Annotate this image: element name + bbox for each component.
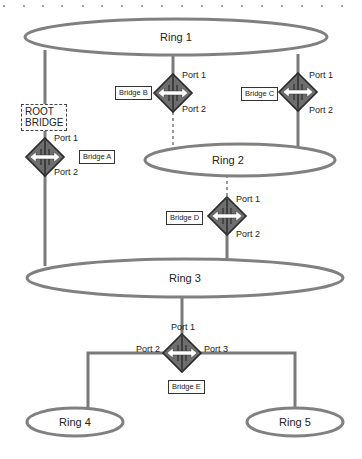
dotted-border [3, 5, 343, 7]
bridge-d-label: Bridge D [166, 211, 203, 225]
ring-3-label: Ring 3 [169, 273, 201, 284]
bridge-e-port1-label: Port 1 [171, 323, 195, 332]
bridge-e-label: Bridge E [168, 380, 205, 394]
bridge-a-label: Bridge A [79, 150, 115, 164]
root-bridge-line2: BRIDGE [25, 118, 63, 129]
bridge-e-port2-label: Port 2 [136, 345, 160, 354]
bridge-a-port1-label: Port 1 [54, 134, 78, 143]
bridge-b-label: Bridge B [115, 86, 152, 100]
bridge-d-port1-label: Port 1 [236, 195, 260, 204]
root-bridge-label: ROOT BRIDGE [21, 104, 67, 131]
bridge-d-port2-label: Port 2 [236, 230, 260, 239]
bridge-a-port2-label: Port 2 [54, 168, 78, 177]
link-bridge-e-ring4 [88, 353, 164, 408]
bridge-e-port3-label: Port 3 [204, 345, 228, 354]
link-bridge-e-ring5 [200, 353, 295, 408]
bridge-c-port1-label: Port 1 [309, 71, 333, 80]
bridge-c-label: Bridge C [241, 87, 278, 101]
root-bridge-line1: ROOT [25, 107, 63, 118]
ring-2-label: Ring 2 [212, 155, 244, 166]
bridge-e-icon [163, 334, 201, 372]
bridge-b-port2-label: Port 2 [182, 105, 206, 114]
ring-1-label: Ring 1 [160, 32, 192, 43]
ring-5-label: Ring 5 [279, 417, 311, 428]
bridge-c-port2-label: Port 2 [309, 106, 333, 115]
bridge-b-port1-label: Port 1 [182, 71, 206, 80]
ring-4-label: Ring 4 [59, 417, 91, 428]
